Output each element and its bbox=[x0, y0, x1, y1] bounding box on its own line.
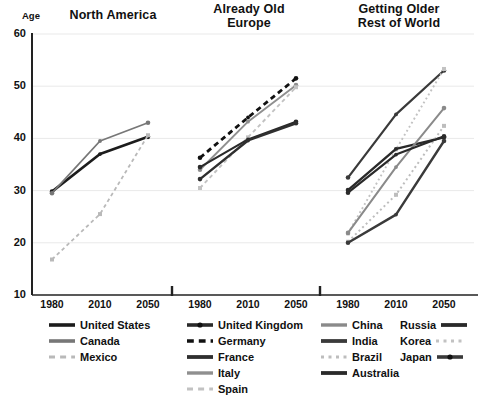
legend-item-label: Spain bbox=[218, 383, 248, 395]
series-marker bbox=[394, 213, 398, 217]
legend-item[interactable]: Mexico bbox=[48, 349, 150, 365]
legend-item[interactable]: China bbox=[320, 317, 399, 333]
y-axis-tick-label: 60 bbox=[4, 27, 26, 39]
series-line bbox=[52, 123, 148, 193]
legend-line-solid bbox=[48, 319, 76, 331]
x-axis-tick-label: 2010 bbox=[225, 298, 271, 310]
y-axis-tick-label: 40 bbox=[4, 131, 26, 143]
legend-item[interactable]: Brazil bbox=[320, 349, 399, 365]
series-marker bbox=[294, 76, 299, 81]
series-line bbox=[200, 123, 296, 179]
legend-item-label: China bbox=[352, 319, 383, 331]
legend-item-label: Germany bbox=[218, 335, 266, 347]
series-marker bbox=[442, 106, 447, 111]
series-marker bbox=[346, 175, 351, 180]
legend-item-label: Russia bbox=[400, 319, 436, 331]
legend-item[interactable]: Russia bbox=[400, 317, 468, 333]
x-axis-tick-label: 2050 bbox=[125, 298, 171, 310]
legend-item[interactable]: United States bbox=[48, 317, 150, 333]
series-marker bbox=[98, 212, 102, 216]
series-marker bbox=[98, 139, 102, 143]
series-marker bbox=[50, 191, 55, 196]
legend-item-label: Japan bbox=[400, 351, 432, 363]
series-marker bbox=[146, 133, 150, 137]
legend-item[interactable]: Germany bbox=[186, 333, 303, 349]
series-marker bbox=[294, 121, 299, 126]
series-marker bbox=[98, 152, 102, 156]
series-marker bbox=[394, 153, 398, 157]
legend-item-label: United States bbox=[80, 319, 150, 331]
series-marker bbox=[294, 85, 298, 89]
series-marker bbox=[442, 139, 447, 144]
legend-item-label: Brazil bbox=[352, 351, 382, 363]
series-marker bbox=[442, 124, 446, 128]
plot-area: 6050403020101980201020501980201020501980… bbox=[0, 0, 481, 305]
series-line bbox=[52, 137, 148, 192]
series-marker bbox=[198, 165, 203, 170]
y-axis-tick-label: 20 bbox=[4, 236, 26, 248]
legend-line-solid bbox=[186, 367, 214, 379]
legend-item-label: Italy bbox=[218, 367, 240, 379]
series-marker bbox=[246, 139, 250, 143]
y-axis-tick-label: 30 bbox=[4, 184, 26, 196]
legend-line-solid bbox=[186, 351, 214, 363]
legend-item-label: United Kingdom bbox=[218, 319, 303, 331]
series-marker bbox=[50, 258, 54, 262]
series-marker bbox=[198, 177, 203, 182]
legend-item[interactable]: Italy bbox=[186, 365, 303, 381]
legend-item[interactable]: Spain bbox=[186, 381, 303, 397]
series-marker bbox=[394, 147, 398, 151]
legend-item[interactable]: Japan bbox=[400, 349, 468, 365]
legend-item[interactable]: Korea bbox=[400, 333, 468, 349]
legend-column: United KingdomGermanyFranceItalySpain bbox=[186, 317, 303, 397]
legend-line-solid bbox=[320, 367, 348, 379]
legend-item[interactable]: Canada bbox=[48, 333, 150, 349]
x-axis-tick-label: 1980 bbox=[177, 298, 223, 310]
legend-line-dotted bbox=[435, 335, 463, 347]
legend-line-solid bbox=[440, 319, 468, 331]
chart-canvas bbox=[0, 0, 481, 305]
legend-column: ChinaIndiaBrazilAustralia bbox=[320, 317, 399, 381]
legend-item-label: Australia bbox=[352, 367, 399, 379]
series-marker bbox=[442, 67, 446, 71]
legend-line-dashed bbox=[186, 383, 214, 395]
series-marker bbox=[394, 165, 398, 169]
series-marker bbox=[346, 241, 351, 246]
legend-line-dashed bbox=[48, 351, 76, 363]
y-axis-tick-label: 10 bbox=[4, 288, 26, 300]
legend-column: RussiaKoreaJapan bbox=[400, 317, 468, 365]
legend-line-solid bbox=[48, 335, 76, 347]
legend-column: United StatesCanadaMexico bbox=[48, 317, 150, 365]
series-marker bbox=[146, 120, 151, 125]
chart-root: Age North America Already Old Europe Get… bbox=[0, 0, 481, 401]
legend-line-solid bbox=[320, 319, 348, 331]
legend-item[interactable]: United Kingdom bbox=[186, 317, 303, 333]
series-marker bbox=[346, 190, 351, 195]
chart-legend: United StatesCanadaMexicoUnited KingdomG… bbox=[0, 315, 481, 401]
x-axis-tick-label: 1980 bbox=[325, 298, 371, 310]
legend-line-solid bbox=[436, 351, 464, 363]
legend-item[interactable]: France bbox=[186, 349, 303, 365]
series-marker bbox=[394, 193, 398, 197]
series-marker bbox=[198, 186, 202, 190]
legend-line-dotted bbox=[320, 351, 348, 363]
legend-item-label: India bbox=[352, 335, 378, 347]
series-line bbox=[348, 126, 444, 242]
legend-item[interactable]: India bbox=[320, 333, 399, 349]
series-marker bbox=[246, 120, 250, 124]
legend-line-solid bbox=[186, 319, 214, 331]
legend-item-label: France bbox=[218, 351, 254, 363]
series-marker bbox=[246, 116, 250, 120]
series-marker bbox=[394, 112, 398, 116]
legend-item-label: Korea bbox=[400, 335, 431, 347]
legend-item-label: Canada bbox=[80, 335, 120, 347]
legend-line-solid bbox=[320, 335, 348, 347]
legend-item-label: Mexico bbox=[80, 351, 117, 363]
x-axis-tick-label: 2010 bbox=[373, 298, 419, 310]
series-marker bbox=[198, 155, 203, 160]
y-axis-tick-label: 50 bbox=[4, 79, 26, 91]
x-axis-tick-label: 2050 bbox=[421, 298, 467, 310]
x-axis-tick-label: 2010 bbox=[77, 298, 123, 310]
x-axis-tick-label: 1980 bbox=[29, 298, 75, 310]
legend-item[interactable]: Australia bbox=[320, 365, 399, 381]
